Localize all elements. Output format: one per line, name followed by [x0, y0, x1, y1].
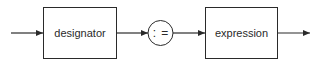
assign-symbol: : = — [148, 26, 174, 40]
arrow-assign-to-expression — [173, 30, 205, 36]
arrow-designator-to-assign — [116, 30, 148, 36]
designator-label: designator — [43, 26, 117, 40]
entry-arrow — [11, 30, 43, 36]
expression-label: expression — [205, 26, 278, 40]
exit-arrow — [277, 30, 310, 36]
